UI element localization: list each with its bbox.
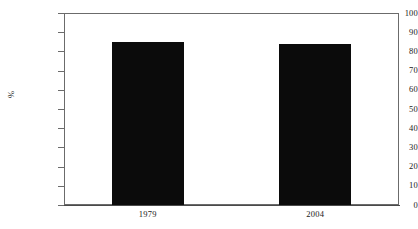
y-axis-title: % bbox=[6, 91, 16, 98]
bar bbox=[112, 42, 184, 205]
y-axis-tick bbox=[58, 205, 64, 206]
x-axis-line bbox=[64, 205, 400, 206]
bars-group bbox=[64, 13, 399, 205]
bar-chart: % 0102030405060708090100 19792004 bbox=[0, 0, 418, 229]
bar bbox=[279, 44, 351, 205]
x-axis-tick-label: 2004 bbox=[232, 210, 400, 219]
y-axis-title-area: % bbox=[0, 0, 24, 229]
x-axis-tick-label: 1979 bbox=[64, 210, 232, 219]
